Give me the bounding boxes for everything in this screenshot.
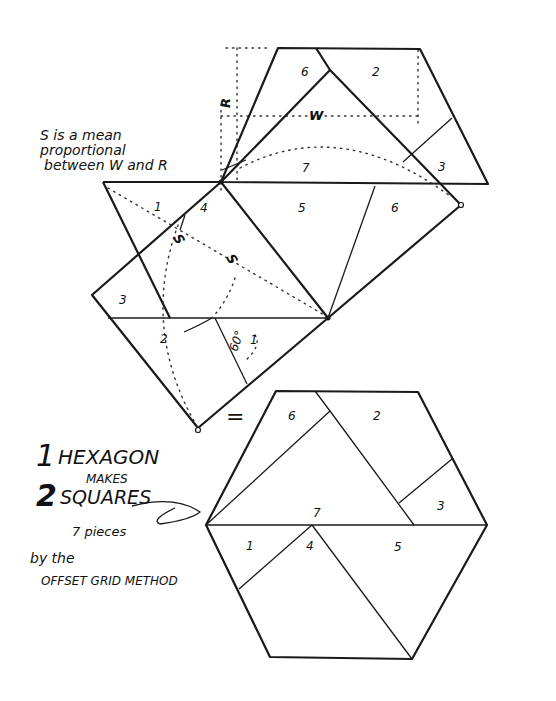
vertex-marker [459,203,464,208]
label-s1: S [170,231,188,247]
hex-label-4: 4 [306,539,314,553]
label-piece-1b: 1 [250,333,258,347]
vertex-marker [219,180,224,185]
divider-6-7-hex [206,411,330,525]
label-piece-4: 4 [200,201,208,215]
label-piece-6b: 6 [391,201,399,215]
hexagon-figure [206,391,487,659]
dissection-diagram: 6 2 7 3 1 4 5 6 3 2 1 60° R W S S S is a… [0,0,556,701]
annotation-line3: between W and R [44,157,168,173]
hex-label-7: 7 [313,506,321,520]
s-arc-mid [212,278,235,318]
hex-label-2: 2 [373,409,381,423]
hex-label-1: 1 [246,539,254,553]
label-piece-2b: 2 [160,332,168,346]
right-triangle-edge [328,202,461,318]
annotation-line1: S is a mean [40,127,122,143]
label-piece-7: 7 [302,161,310,175]
label-r: R [218,98,233,108]
label-piece-3b: 3 [119,293,127,307]
label-w: W [309,108,324,123]
title-number-1: 1 [36,438,55,473]
title-number-2: 2 [36,478,57,513]
pieces-note: 7 pieces [72,524,126,539]
hex-label-6: 6 [288,409,296,423]
annotation-line2: proportional [39,142,126,158]
label-piece-3: 3 [438,160,446,174]
arc-upper [240,147,450,196]
label-piece-6: 6 [301,65,309,79]
label-piece-1: 1 [154,200,162,214]
divider-6-2 [316,48,461,205]
vertex-marker [196,428,201,433]
label-angle: 60° [226,329,246,354]
divider-2-3-hex [399,459,452,503]
vertex-marker [326,316,331,321]
top-figure [92,48,488,433]
label-piece-5: 5 [298,201,306,215]
method-name: OFFSET GRID METHOD [41,574,178,588]
hex-label-3: 3 [437,499,445,513]
title-hexagon: HEXAGON [58,445,159,469]
title-makes: MAKES [86,472,128,486]
divider-1-4-hex [239,525,312,589]
divider-2-3 [403,118,452,162]
label-piece-2: 2 [372,65,380,79]
s-arc-left [163,225,198,428]
equals-sign: = [226,404,244,429]
method-by: by the [30,550,75,566]
hex-label-5: 5 [394,540,402,554]
arrow-arc [184,318,212,332]
